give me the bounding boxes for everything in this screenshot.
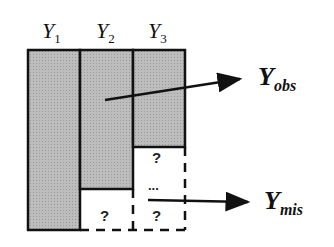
column-label-y3: Y3: [148, 18, 167, 47]
column-label-y2: Y2: [96, 18, 115, 47]
mis-arrow: [148, 200, 248, 202]
column-label-y1: Y1: [42, 18, 61, 47]
y1-observed-block: [28, 50, 80, 230]
y-mis-label: Ymis: [264, 186, 303, 219]
missing-marker-y2: ?: [100, 207, 109, 224]
missing-marker-y3-bottom: ?: [152, 207, 161, 224]
missing-marker-y3: ?: [152, 149, 161, 166]
y3-observed-block: [133, 50, 185, 147]
missing-ellipsis: ...: [148, 178, 159, 193]
y2-observed-block: [80, 50, 133, 189]
y-obs-label: Yobs: [258, 62, 296, 95]
